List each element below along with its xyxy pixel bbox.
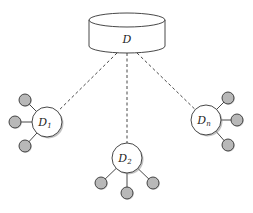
dashed-link-dn [137,53,195,110]
database-label: D [122,33,132,46]
leaf-node [19,94,31,106]
distributed-database-diagram: D D1D2Dn [0,0,253,213]
leaf-node [95,177,107,189]
leaf-node [222,139,234,151]
site-node-d1: D1 [9,94,64,153]
leaf-node [121,187,133,199]
site-nodes: D1D2Dn [9,92,244,200]
leaf-node [231,114,243,126]
leaf-node [9,116,21,128]
cylinder-top [89,13,165,27]
dashed-link-d1 [58,53,117,111]
site-node-dn: Dn [191,92,244,152]
leaf-node [222,92,234,104]
central-database-cylinder: D [89,13,165,53]
dashed-connections [58,53,196,143]
site-node-d2: D2 [95,143,160,200]
leaf-node [19,140,31,152]
leaf-node [147,177,159,189]
